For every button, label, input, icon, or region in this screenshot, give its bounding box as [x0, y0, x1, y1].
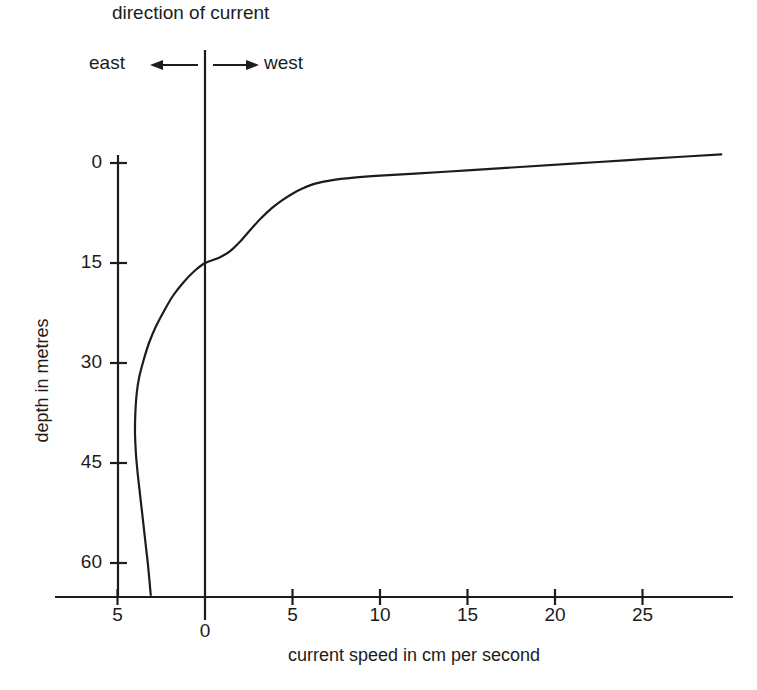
- x-axis-tick-label: 10: [360, 604, 400, 626]
- y-axis-tick-label: 60: [62, 551, 102, 573]
- y-axis-tick-label: 30: [62, 351, 102, 373]
- x-axis-tick-label: 5: [273, 604, 313, 626]
- current-profile-curve: [135, 154, 721, 595]
- y-axis-tick-label: 45: [62, 451, 102, 473]
- arrow-left-icon: [150, 60, 198, 70]
- x-axis-tick-label: 25: [623, 604, 663, 626]
- plot-area: [0, 0, 757, 690]
- x-axis-tick-label: 20: [535, 604, 575, 626]
- arrow-right-icon: [213, 60, 259, 70]
- x-axis-tick-label: 15: [448, 604, 488, 626]
- y-axis-tick-label: 15: [62, 251, 102, 273]
- x-axis-tick-label: 5: [98, 604, 138, 626]
- y-axis-tick-label: 0: [62, 151, 102, 173]
- current-profile-figure: direction of current east west current s…: [0, 0, 757, 690]
- x-axis-tick-label: 0: [185, 620, 225, 642]
